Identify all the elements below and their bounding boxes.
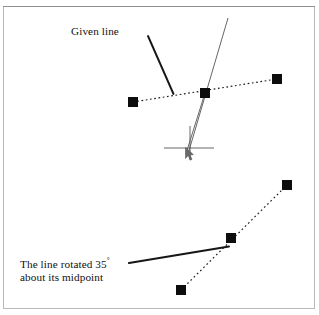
rotated-caption-line1: The line rotated 35 <box>20 258 107 270</box>
handle-lower-mid[interactable] <box>226 233 236 243</box>
rotated-caption-line2: about its midpoint <box>20 271 103 283</box>
lower-diagram <box>129 180 292 295</box>
given-line-leader <box>148 36 174 94</box>
drag-line-long <box>188 18 228 154</box>
handle-right[interactable] <box>272 74 282 84</box>
drag-line-short <box>187 93 206 152</box>
given-line-label: Given line <box>71 25 119 38</box>
rotated-line-caption: The line rotated 35°about its midpoint <box>20 258 110 285</box>
handle-left[interactable] <box>128 97 138 107</box>
handle-lower-left[interactable] <box>176 285 186 295</box>
degree-symbol: ° <box>107 256 110 265</box>
handle-mid[interactable] <box>200 88 210 98</box>
rotated-line-leader <box>129 247 229 264</box>
upper-diagram <box>128 18 282 160</box>
handle-lower-right[interactable] <box>282 180 292 190</box>
figure-page: Given line The line rotated 35°about its… <box>0 0 319 315</box>
